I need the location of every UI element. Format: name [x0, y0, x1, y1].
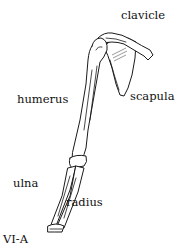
figure-id-label: VI-A [3, 234, 28, 246]
arm-bones-diagram: clavicle humerus scapula ulna radius VI-… [0, 0, 183, 249]
clavicle-label: clavicle [121, 10, 165, 22]
scapula-label: scapula [130, 91, 175, 103]
radius-label: radius [66, 197, 103, 209]
humerus-shape [69, 38, 107, 168]
ulna-label: ulna [13, 178, 38, 190]
humerus-label: humerus [17, 94, 68, 106]
arm-bones-illustration [0, 0, 183, 249]
